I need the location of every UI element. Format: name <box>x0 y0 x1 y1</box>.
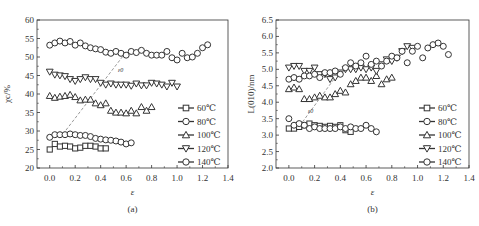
y-tick-label: 50 <box>25 52 35 62</box>
data-point-marker <box>98 146 103 151</box>
data-point-marker <box>128 83 135 89</box>
data-point-marker <box>337 71 343 77</box>
y-tick-label: 6.5 <box>262 15 274 25</box>
x-tick-label: 1.2 <box>197 173 208 183</box>
legend-label: 60℃ <box>438 103 457 113</box>
data-point-marker <box>62 143 67 148</box>
x-tick-label: 0.6 <box>360 173 372 183</box>
y-tick-label: 45 <box>25 71 35 81</box>
legend: 60℃80℃100℃120℃140℃ <box>178 103 221 167</box>
x-tick-label: 0.4 <box>95 173 107 183</box>
legend-label: 80℃ <box>438 117 457 127</box>
y-tick-label: 55 <box>25 34 35 44</box>
y-tick-label: 30 <box>25 126 35 136</box>
data-point-marker <box>285 65 292 71</box>
x-tick-label: 0.6 <box>121 173 133 183</box>
data-point-marker <box>286 116 292 122</box>
data-point-marker <box>205 42 211 48</box>
data-point-marker <box>291 84 298 90</box>
legend-item: 120℃ <box>178 144 221 154</box>
data-point-marker <box>384 58 390 64</box>
data-point-marker <box>143 83 150 89</box>
x-tick-label: 1.2 <box>438 173 449 183</box>
y-tick-label: 4.5 <box>262 81 274 91</box>
y-tick-label: 40 <box>25 89 35 99</box>
data-point-marker <box>363 53 369 59</box>
series-140℃ <box>286 40 452 82</box>
data-point-marker <box>394 55 400 61</box>
series-60℃ <box>47 141 108 152</box>
data-point-marker <box>128 107 135 113</box>
data-point-marker <box>102 100 109 106</box>
data-point-marker <box>52 141 57 146</box>
chart-panel-a: 0.00.20.40.60.81.01.21.42025303540455055… <box>2 15 234 214</box>
data-point-marker <box>373 129 379 135</box>
x-tick-label: 1.0 <box>412 173 424 183</box>
data-point-marker <box>128 140 134 146</box>
data-point-marker <box>103 146 108 151</box>
x-tick-label: 0.2 <box>309 173 320 183</box>
y-tick-label: 2.5 <box>262 147 274 157</box>
data-point-marker <box>337 87 344 93</box>
x-tick-label: 0.4 <box>335 173 347 183</box>
data-point-marker <box>87 96 94 102</box>
data-point-marker <box>194 50 200 56</box>
figure: 0.00.20.40.60.81.01.21.42025303540455055… <box>0 0 479 226</box>
data-point-marker <box>379 63 385 69</box>
data-point-marker <box>78 145 83 150</box>
legend-item: 80℃ <box>178 117 216 127</box>
legend-marker <box>183 118 189 124</box>
x-axis-label: ε <box>371 187 375 197</box>
legend-label: 100℃ <box>438 130 462 140</box>
legend-marker <box>183 159 189 165</box>
series-100℃ <box>46 91 155 116</box>
y-tick-label: 25 <box>25 145 35 155</box>
legend-marker <box>424 118 430 124</box>
y-tick-label: 3.0 <box>262 130 274 140</box>
data-point-marker <box>286 126 291 131</box>
legend-item: 60℃ <box>419 103 457 113</box>
data-point-marker <box>373 58 379 64</box>
x-tick-label: 1.4 <box>463 173 475 183</box>
data-point-marker <box>316 92 323 98</box>
y-axis-label: L(010)/nm <box>246 75 256 114</box>
data-point-marker <box>404 60 410 66</box>
data-point-marker <box>164 48 170 54</box>
x-tick-label: 1.0 <box>171 173 183 183</box>
epsilon0-annotation: ε0 <box>118 67 123 73</box>
data-point-marker <box>373 68 380 74</box>
data-point-marker <box>420 55 426 61</box>
x-tick-label: 0.0 <box>44 173 56 183</box>
legend-item: 140℃ <box>419 157 462 167</box>
epsilon0-annotation: ε0 <box>308 108 313 114</box>
data-point-marker <box>409 48 415 54</box>
y-tick-label: 4.0 <box>262 97 274 107</box>
legend-item: 100℃ <box>419 130 462 140</box>
data-point-marker <box>72 78 79 84</box>
data-point-marker <box>174 84 181 90</box>
data-point-marker <box>174 57 180 63</box>
y-tick-label: 2.0 <box>262 163 274 173</box>
y-axis-label: χc/% <box>2 85 12 104</box>
panel-label: (a) <box>128 204 138 214</box>
data-point-marker <box>363 74 370 80</box>
y-tick-label: 5.5 <box>262 48 274 58</box>
data-point-marker <box>93 144 98 149</box>
legend-label: 80℃ <box>197 117 216 127</box>
series-120℃ <box>46 69 180 90</box>
legend-marker <box>424 159 430 165</box>
y-tick-label: 60 <box>25 15 35 25</box>
data-point-marker <box>73 146 78 151</box>
data-point-marker <box>363 67 370 73</box>
data-point-marker <box>67 91 74 97</box>
data-point-marker <box>47 147 52 152</box>
legend-item: 100℃ <box>178 130 221 140</box>
legend: 60℃80℃100℃120℃140℃ <box>419 103 462 167</box>
data-point-marker <box>138 104 145 110</box>
legend-marker <box>424 105 430 111</box>
data-point-marker <box>440 43 446 49</box>
data-point-marker <box>148 104 155 110</box>
data-point-marker <box>179 50 185 56</box>
data-point-marker <box>57 144 62 149</box>
data-point-marker <box>317 75 323 81</box>
